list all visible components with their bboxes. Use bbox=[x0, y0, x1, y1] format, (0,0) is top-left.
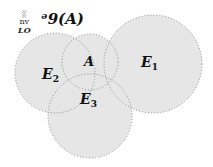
diagram-title: ᵊ9(A) bbox=[41, 10, 84, 28]
label-a-main: A bbox=[84, 54, 94, 69]
label-e1-main: E bbox=[141, 54, 152, 70]
label-e2-main: E bbox=[42, 66, 53, 82]
label-e2-sub: 2 bbox=[53, 74, 59, 84]
corner-mark-text2: LO bbox=[18, 26, 31, 34]
label-e3-main: E bbox=[80, 91, 91, 107]
label-e1-sub: 1 bbox=[152, 62, 158, 72]
label-a: A bbox=[84, 54, 94, 69]
corner-mark: ░ nv LO bbox=[18, 10, 31, 34]
label-e3-sub: 3 bbox=[91, 99, 97, 109]
label-e3: E3 bbox=[80, 91, 97, 109]
label-e2: E2 bbox=[42, 66, 59, 84]
label-e1: E1 bbox=[141, 54, 158, 72]
venn-diagram bbox=[0, 0, 213, 167]
